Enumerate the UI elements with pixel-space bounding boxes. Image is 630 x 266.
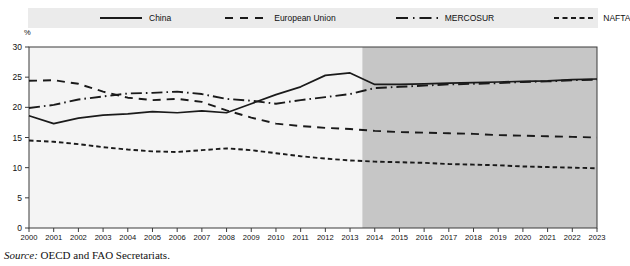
x-tick-2014: 2014	[362, 233, 388, 242]
x-tick-2000: 2000	[16, 233, 42, 242]
legend-label-china: China	[149, 13, 171, 23]
y-tick-25: 25	[2, 72, 22, 82]
x-tick-2022: 2022	[559, 233, 585, 242]
x-tick-2012: 2012	[312, 233, 338, 242]
legend-item-nafta[interactable]: NAFTA	[552, 13, 630, 23]
x-tick-2008: 2008	[214, 233, 240, 242]
y-tick-30: 30	[2, 42, 22, 52]
legend-item-european-union[interactable]: European Union	[223, 13, 335, 23]
x-tick-2002: 2002	[65, 233, 91, 242]
y-tick-0: 0	[2, 223, 22, 233]
x-tick-2006: 2006	[164, 233, 190, 242]
source-label: Source:	[4, 249, 38, 261]
x-tick-2019: 2019	[485, 233, 511, 242]
chart-legend: China European Union MERCOSUR NAFTA	[28, 8, 598, 28]
x-tick-2001: 2001	[41, 233, 67, 242]
short-dash-line-icon	[552, 13, 598, 23]
x-tick-2018: 2018	[461, 233, 487, 242]
x-tick-2013: 2013	[337, 233, 363, 242]
y-tick-20: 20	[2, 102, 22, 112]
dash-dot-line-icon	[394, 13, 440, 23]
source-text: OECD and FAO Secretariats.	[41, 249, 170, 261]
x-tick-2010: 2010	[263, 233, 289, 242]
y-tick-10: 10	[2, 163, 22, 173]
solid-line-icon	[98, 13, 144, 23]
dashed-line-icon	[223, 13, 269, 23]
x-tick-2023: 2023	[584, 233, 610, 242]
x-tick-2007: 2007	[189, 233, 215, 242]
source-note: Source: OECD and FAO Secretariats.	[4, 249, 170, 261]
x-tick-2011: 2011	[288, 233, 314, 242]
x-tick-2016: 2016	[411, 233, 437, 242]
y-tick-15: 15	[2, 133, 22, 143]
legend-label-european-union: European Union	[274, 13, 335, 23]
y-tick-5: 5	[2, 193, 22, 203]
chart-plot-area	[0, 30, 625, 245]
x-tick-2021: 2021	[535, 233, 561, 242]
x-tick-2003: 2003	[90, 233, 116, 242]
x-tick-2020: 2020	[510, 233, 536, 242]
x-tick-2009: 2009	[238, 233, 264, 242]
x-tick-2017: 2017	[436, 233, 462, 242]
x-tick-2015: 2015	[386, 233, 412, 242]
legend-label-mercosur: MERCOSUR	[445, 13, 495, 23]
x-tick-2004: 2004	[115, 233, 141, 242]
x-tick-2005: 2005	[139, 233, 165, 242]
cropped-title-descenders	[0, 0, 625, 6]
legend-item-mercosur[interactable]: MERCOSUR	[394, 13, 495, 23]
legend-item-china[interactable]: China	[98, 13, 171, 23]
legend-label-nafta: NAFTA	[603, 13, 630, 23]
